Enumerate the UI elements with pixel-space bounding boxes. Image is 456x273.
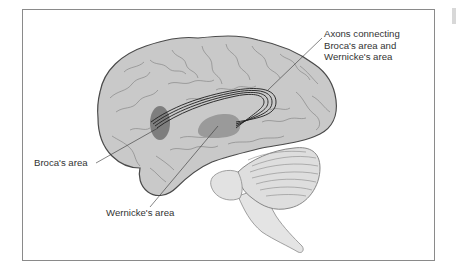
label-broca: Broca's area (34, 157, 88, 169)
label-axons-line3: Wernicke's area (324, 51, 400, 63)
pons (211, 170, 242, 200)
label-axons: Axons connecting Broca's area and Wernic… (324, 28, 400, 63)
label-axons-line1: Axons connecting (324, 28, 400, 40)
label-axons-line2: Broca's area and (324, 40, 400, 52)
label-wernicke: Wernicke's area (106, 207, 174, 219)
